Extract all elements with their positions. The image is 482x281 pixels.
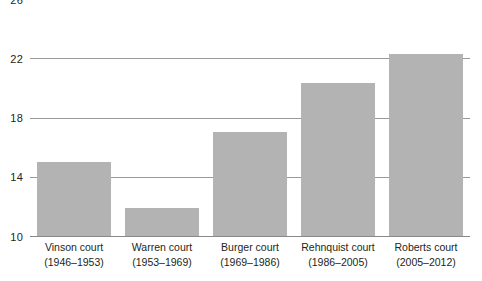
y-axis-tick-label: 26 — [10, 0, 23, 5]
bar-slot — [118, 0, 206, 236]
x-axis-category-label: Burger court(1969–1986) — [206, 240, 294, 269]
bar-slot — [382, 0, 470, 236]
x-axis-category-label: Warren court(1953–1969) — [118, 240, 206, 269]
plot-area: 1014182226 — [30, 0, 470, 237]
y-axis-tick-label: 18 — [10, 113, 23, 124]
x-axis-labels: Vinson court(1946–1953)Warren court(1953… — [30, 240, 470, 281]
bar-chart: 1014182226 Vinson court(1946–1953)Warren… — [0, 0, 482, 281]
bar[interactable] — [301, 83, 374, 236]
y-axis-tick-label: 10 — [10, 231, 23, 242]
category-name: Vinson court — [30, 240, 118, 255]
y-axis-tick-label: 22 — [10, 53, 23, 64]
category-name: Burger court — [206, 240, 294, 255]
bar[interactable] — [37, 162, 110, 236]
bar-slot — [30, 0, 118, 236]
category-name: Roberts court — [382, 240, 470, 255]
bar[interactable] — [125, 208, 198, 236]
category-years: (1969–1986) — [206, 255, 294, 270]
x-axis-category-label: Vinson court(1946–1953) — [30, 240, 118, 269]
bars-layer — [30, 0, 470, 237]
category-years: (1946–1953) — [30, 255, 118, 270]
x-axis-category-label: Roberts court(2005–2012) — [382, 240, 470, 269]
y-axis-tick-label: 14 — [10, 172, 23, 183]
category-years: (1986–2005) — [294, 255, 382, 270]
category-years: (2005–2012) — [382, 255, 470, 270]
bar[interactable] — [213, 132, 286, 236]
category-name: Rehnquist court — [294, 240, 382, 255]
category-name: Warren court — [118, 240, 206, 255]
bar-slot — [294, 0, 382, 236]
bar[interactable] — [389, 54, 462, 236]
category-years: (1953–1969) — [118, 255, 206, 270]
x-axis-category-label: Rehnquist court(1986–2005) — [294, 240, 382, 269]
bar-slot — [206, 0, 294, 236]
